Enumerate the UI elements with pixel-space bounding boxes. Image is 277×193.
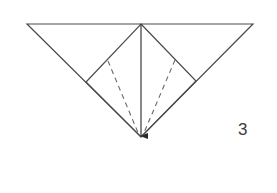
dashed-fold-line-right [143, 60, 175, 135]
outer-triangle [27, 24, 253, 137]
step-number-label: 3 [238, 121, 247, 138]
fold-diagram [0, 0, 277, 193]
dashed-fold-line-left [108, 61, 139, 135]
